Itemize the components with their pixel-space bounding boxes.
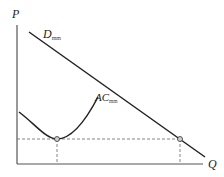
x-axis-label: Q — [208, 157, 217, 171]
y-axis-label: P — [11, 7, 20, 21]
demand-intersection-point — [178, 137, 183, 142]
economics-diagram: P Q Dmm ACmm — [0, 0, 224, 177]
demand-label: Dmm — [42, 27, 61, 41]
ac-minimum-point — [55, 137, 60, 142]
average-cost-curve — [19, 97, 98, 139]
